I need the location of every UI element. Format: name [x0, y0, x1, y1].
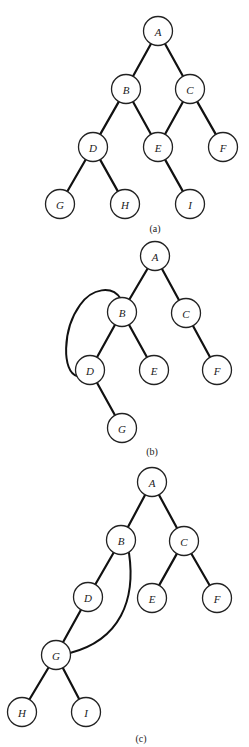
edge-d-h — [100, 160, 118, 192]
edge-b-e — [133, 102, 151, 135]
node-label: B — [123, 84, 130, 96]
node-label: H — [17, 707, 27, 719]
edge-a-c — [159, 495, 177, 529]
node-label: D — [88, 142, 97, 154]
node-d: D — [74, 583, 103, 612]
node-c: C — [172, 299, 201, 328]
node-e: E — [140, 356, 169, 385]
edge-a-b — [133, 44, 151, 77]
edge-c-e — [159, 554, 177, 586]
node-f: F — [209, 133, 238, 162]
node-e: E — [144, 133, 173, 162]
edge-b-d — [95, 553, 113, 585]
node-label: H — [120, 199, 130, 211]
node-b: B — [107, 526, 136, 555]
node-label: G — [52, 650, 60, 662]
node-label: A — [148, 477, 156, 489]
edge-g-h — [29, 667, 48, 699]
node-label: E — [150, 365, 158, 377]
node-h: H — [111, 190, 140, 219]
diagram-canvas: ABCDEFGHI(a) ABCDEFG(b) ABCDEFGHI(c) — [0, 0, 249, 747]
edge-b-e — [129, 325, 147, 358]
figure-b: ABCDEFG(b) — [66, 242, 231, 458]
figure-a: ABCDEFGHI(a) — [46, 17, 238, 235]
node-label: F — [213, 593, 221, 605]
node-label: E — [148, 593, 156, 605]
edge-a-b — [128, 495, 145, 527]
node-f: F — [203, 584, 232, 613]
node-label: D — [83, 592, 92, 604]
node-i: I — [72, 698, 101, 727]
node-label: B — [118, 535, 125, 547]
node-d: D — [79, 133, 108, 162]
node-label: D — [85, 365, 94, 377]
node-label: C — [180, 536, 188, 548]
node-f: F — [203, 356, 232, 385]
edge-a-c — [165, 44, 183, 77]
node-label: B — [119, 307, 126, 319]
node-label: C — [182, 308, 190, 320]
edge-c-f — [197, 102, 216, 135]
node-label: F — [219, 142, 227, 154]
node-e: E — [138, 584, 167, 613]
node-b: B — [112, 75, 141, 104]
edge-b-d — [97, 325, 115, 358]
node-label: A — [151, 251, 159, 263]
edge-g-i — [63, 668, 79, 699]
edge-c-e — [165, 102, 183, 135]
edge-d-g — [97, 383, 115, 416]
edge-b-d — [100, 102, 119, 135]
edge-c-f — [193, 326, 210, 358]
node-a: A — [138, 468, 167, 497]
node-i: I — [176, 190, 205, 219]
edge-c-f — [191, 554, 209, 586]
node-label: F — [213, 365, 221, 377]
edge-d-g — [63, 610, 81, 643]
node-g: G — [46, 190, 75, 219]
node-label: G — [56, 199, 64, 211]
node-label: C — [186, 84, 194, 96]
figure-c: ABCDEFGHI(c) — [8, 468, 232, 745]
figure-caption: (c) — [135, 733, 146, 745]
figure-caption: (b) — [146, 446, 158, 458]
node-a: A — [144, 17, 173, 46]
edge-a-c — [162, 269, 179, 301]
node-c: C — [170, 527, 199, 556]
node-label: E — [154, 142, 162, 154]
node-a: A — [141, 242, 170, 271]
node-label: A — [154, 26, 162, 38]
node-label: G — [118, 423, 126, 435]
node-b: B — [108, 298, 137, 327]
figure-caption: (a) — [149, 223, 160, 235]
node-g: G — [108, 414, 137, 443]
node-g: G — [42, 641, 71, 670]
edge-e-i — [165, 160, 183, 192]
node-d: D — [76, 356, 105, 385]
edge-a-b — [129, 268, 147, 299]
node-c: C — [176, 75, 205, 104]
node-h: H — [8, 698, 37, 727]
edge-d-g — [67, 160, 85, 192]
